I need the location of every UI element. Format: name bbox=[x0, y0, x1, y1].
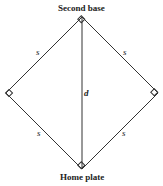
side-label-bottom-right: s bbox=[122, 128, 126, 138]
side-label-bottom-left: s bbox=[37, 128, 41, 138]
side-label-top-left: s bbox=[36, 47, 40, 57]
square-diagram bbox=[0, 0, 163, 186]
second-base-label: Second base bbox=[58, 3, 105, 13]
side-label-top-right: s bbox=[123, 47, 127, 57]
diagonal-label: d bbox=[84, 88, 89, 98]
home-plate-label: Home plate bbox=[60, 172, 104, 182]
